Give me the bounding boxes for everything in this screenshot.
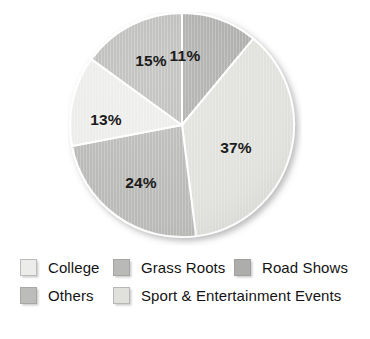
legend-row: OthersSport & Entertainment Events <box>0 283 370 309</box>
legend-item[interactable]: Others <box>20 283 94 307</box>
legend-color-swatch <box>113 259 130 276</box>
pie-sheen-overlay <box>70 13 294 237</box>
legend-label: Others <box>48 287 94 304</box>
chart-legend: CollegeGrass RootsRoad Shows OthersSport… <box>0 255 370 317</box>
pie-chart-plot-area: 11%37%24%13%15% <box>68 12 302 246</box>
legend-row: CollegeGrass RootsRoad Shows <box>0 255 370 281</box>
legend-label: Grass Roots <box>141 259 225 276</box>
legend-item[interactable]: College <box>20 255 100 279</box>
legend-item[interactable]: Road Shows <box>234 255 348 279</box>
legend-label: Sport & Entertainment Events <box>141 287 341 304</box>
legend-label: College <box>48 259 100 276</box>
legend-item[interactable]: Grass Roots <box>113 255 225 279</box>
legend-item[interactable]: Sport & Entertainment Events <box>113 283 341 307</box>
legend-color-swatch <box>113 287 130 304</box>
legend-label: Road Shows <box>262 259 348 276</box>
legend-color-swatch <box>20 287 37 304</box>
pie-chart-svg <box>68 12 302 246</box>
legend-color-swatch <box>20 259 37 276</box>
pie-chart-figure: 11%37%24%13%15% CollegeGrass RootsRoad S… <box>0 0 370 339</box>
legend-color-swatch <box>234 259 251 276</box>
